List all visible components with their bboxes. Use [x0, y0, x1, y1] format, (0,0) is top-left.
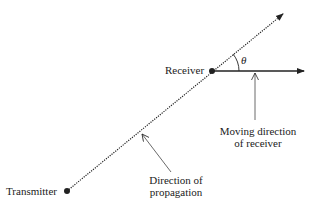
prop-label-line1: Direction of [141, 174, 211, 186]
theta-label: θ [241, 54, 246, 66]
theta-arc [233, 54, 239, 71]
propagation-pointer [142, 134, 171, 172]
propagation-path [67, 14, 283, 191]
moving-direction-label: Moving direction of receiver [218, 125, 298, 149]
propagation-label: Direction of propagation [141, 174, 211, 198]
transmitter-dot [64, 188, 70, 194]
transmitter-label: Transmitter [6, 185, 57, 197]
receiver-label: Receiver [165, 64, 204, 76]
receiver-dot [209, 68, 215, 74]
moving-label-line2: of receiver [218, 137, 298, 149]
prop-label-line2: propagation [141, 186, 211, 198]
moving-label-line1: Moving direction [218, 125, 298, 137]
